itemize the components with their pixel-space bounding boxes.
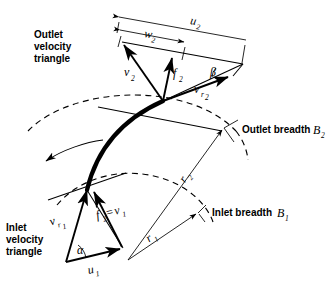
- inlet-caption-line-3: triangle: [6, 246, 43, 257]
- f2-symbol: f: [173, 66, 178, 80]
- label-u1: u 1: [86, 261, 100, 280]
- beta-glyph: β: [209, 65, 216, 79]
- inlet-breadth-leader: [198, 205, 206, 222]
- inlet-breadth-subscript: 1: [285, 214, 289, 223]
- radius-line-r2: [128, 130, 222, 260]
- v1-subscript: 1: [121, 209, 127, 219]
- label-f1-equals-v1: f 2 = v 1: [94, 201, 127, 225]
- vr1-subscript-1: 1: [61, 222, 67, 232]
- u1-symbol: u: [86, 262, 95, 277]
- vr2-subscript-2: 2: [205, 93, 209, 102]
- rotation-arrow: [46, 140, 103, 161]
- f2-subscript: 2: [179, 75, 183, 84]
- inlet-breadth-text: Inlet breadth: [212, 207, 272, 218]
- outlet-caption-line-1: Outlet: [34, 29, 64, 40]
- v2-symbol: v: [124, 65, 130, 79]
- label-w2: w 2: [143, 26, 158, 45]
- label-outlet-breadth: Outlet breadth B 2: [242, 123, 325, 140]
- outlet-tangent-line: [98, 107, 222, 131]
- inlet-tangent-line: [48, 173, 126, 200]
- v2-subscript: 2: [131, 74, 135, 83]
- outlet-velocity-triangle: [122, 42, 243, 101]
- outlet-breadth-text: Outlet breadth: [242, 124, 310, 135]
- inlet-caption-line-1: Inlet: [6, 222, 27, 233]
- inlet-caption-line-2: velocity: [6, 234, 44, 245]
- u2-subscript: 2: [196, 22, 202, 32]
- outlet-breadth-subscript: 2: [321, 131, 325, 140]
- outlet-caption-line-2: velocity: [34, 41, 72, 52]
- dimension-u2: [117, 17, 246, 63]
- outlet-caption-line-3: triangle: [34, 53, 71, 64]
- w2-subscript: 2: [151, 35, 157, 45]
- label-alpha: α: [77, 243, 84, 257]
- alpha-glyph: α: [77, 243, 84, 257]
- outlet-breadth-symbol: B: [313, 123, 321, 137]
- label-beta: β: [209, 65, 216, 79]
- inlet-triangle-caption: Inlet velocity triangle: [6, 222, 44, 257]
- label-v2: v 2: [124, 65, 135, 83]
- vr2-subscript-r: r: [201, 90, 204, 99]
- label-vr1: v r 1: [48, 211, 68, 234]
- label-inlet-breadth: Inlet breadth B 1: [212, 206, 289, 223]
- outlet-rim-arc-right: [236, 131, 248, 160]
- impeller-blade: [87, 101, 163, 190]
- impeller-velocity-triangle-diagram: Outlet velocity triangle Inlet velocity …: [0, 0, 334, 283]
- radius-line-r1: [128, 214, 196, 260]
- inlet-velocity-triangle: [66, 190, 123, 262]
- vr2-symbol: v: [194, 82, 200, 96]
- outlet-triangle-caption: Outlet velocity triangle: [34, 29, 72, 64]
- u1-subscript: 1: [95, 269, 101, 279]
- label-f2: f 2: [173, 66, 183, 84]
- inlet-breadth-symbol: B: [277, 206, 285, 220]
- figure-canvas: Outlet velocity triangle Inlet velocity …: [0, 0, 334, 283]
- label-u2: u 2: [189, 13, 203, 32]
